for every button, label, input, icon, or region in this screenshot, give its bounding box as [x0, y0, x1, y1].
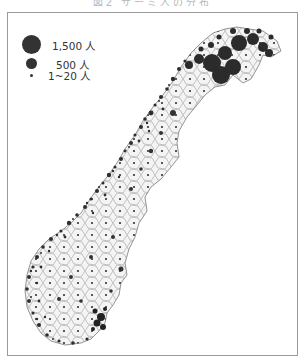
legend-label-large: 1,500 人: [52, 38, 95, 53]
medium-dot-icon: [26, 58, 37, 69]
legend-item-medium: 500 人: [26, 58, 37, 69]
small-dot-icon: [30, 74, 33, 77]
map-frame: 1,500 人 500 人 1~20 人: [7, 12, 298, 356]
norway-dot-map: [8, 13, 299, 357]
legend-label-small: 1~20 人: [48, 68, 90, 83]
legend-item-large: 1,500 人: [22, 35, 41, 54]
large-dot-icon: [22, 35, 41, 54]
legend-item-small: 1~20 人: [30, 74, 33, 77]
figure-title: 図2 サーミ人の分布: [0, 0, 305, 6]
